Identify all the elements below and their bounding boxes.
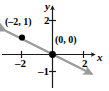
x-axis-label: x (97, 52, 103, 63)
y-tick-label-2: 2 (44, 15, 50, 26)
y-axis (49, 6, 56, 88)
y-axis-label: y (45, 1, 50, 12)
x-tick-label-2: 2 (82, 58, 88, 69)
point-label-b: (0, 0) (55, 35, 77, 45)
point-label-a: (–2, 1) (5, 17, 32, 27)
y-tick-label-neg1: –1 (38, 66, 49, 77)
point-marker-b (49, 51, 56, 58)
x-tick-label-neg2: –2 (15, 58, 26, 69)
graph-canvas (0, 0, 109, 91)
point-marker-a (19, 34, 25, 40)
coordinate-plane-figure: y x 2 –1 –2 2 (–2, 1) (0, 0) (0, 0, 109, 91)
